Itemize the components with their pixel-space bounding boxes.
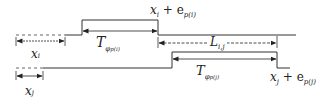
signal-j [16, 52, 290, 68]
label-t-phi-j: Tφp(j) [196, 64, 219, 77]
label-t-phi-i: Tφp(i) [96, 35, 120, 49]
label-x-j: xj [25, 85, 34, 97]
label-xj-plus-e: xj + ep(j) [270, 71, 316, 83]
signal-i [16, 20, 296, 35]
label-x-i: xi [31, 48, 40, 60]
label-l-ij: Li,j [208, 36, 227, 48]
label-xi-plus-e: xi + ep(i) [150, 4, 196, 16]
